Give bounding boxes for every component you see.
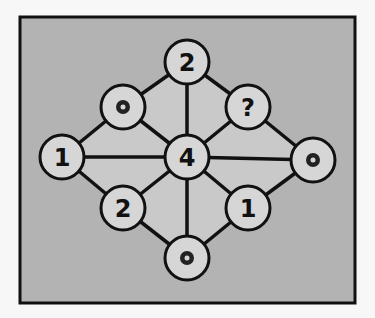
dot-icon-center <box>185 256 190 261</box>
node-left: 1 <box>40 135 84 179</box>
node-number-label: 2 <box>115 195 132 223</box>
node-upper-left <box>101 85 145 129</box>
node-number-label: 2 <box>179 49 196 77</box>
node-number-label: 1 <box>240 195 257 223</box>
node-upper-right[interactable]: ? <box>226 85 270 129</box>
node-lower-left: 2 <box>101 186 145 230</box>
node-number-label: 1 <box>54 144 71 172</box>
node-bottom <box>165 236 209 280</box>
node-number-label: 4 <box>179 144 196 172</box>
node-center: 4 <box>165 135 209 179</box>
dot-icon-center <box>121 105 126 110</box>
node-right <box>291 138 335 182</box>
node-top: 2 <box>165 40 209 84</box>
node-lower-right: 1 <box>226 186 270 230</box>
puzzle-canvas: 2?1421 <box>0 0 375 318</box>
dot-icon-center <box>311 158 316 163</box>
question-mark-label: ? <box>241 94 255 122</box>
